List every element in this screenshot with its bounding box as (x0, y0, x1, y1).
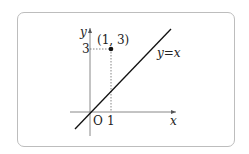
y-tick-label: 3 (82, 42, 90, 56)
y-axis-label: y (79, 25, 87, 39)
x-tick-label: 1 (107, 114, 115, 128)
origin-label: O (93, 114, 103, 128)
line-label: y=x (156, 46, 181, 60)
coordinate-diagram: y x O 1 3 (1, 3) y=x (0, 0, 249, 154)
point-1-3 (109, 47, 114, 52)
point-label: (1, 3) (97, 33, 129, 47)
x-axis-label: x (170, 114, 177, 128)
